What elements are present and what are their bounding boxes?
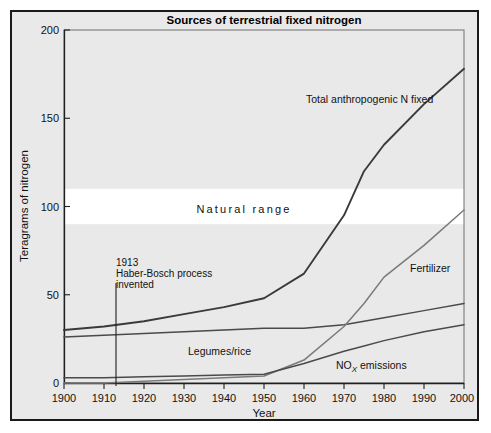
x-tick-1900: 1900 xyxy=(52,392,76,404)
x-tick-1910: 1910 xyxy=(92,392,116,404)
y-tick-200: 200 xyxy=(41,24,59,36)
series-fertilizer xyxy=(64,210,464,383)
figure-panel: Sources of terrestrial fixed nitrogen 0 … xyxy=(10,10,479,421)
annotation-year: 1913 xyxy=(116,257,139,268)
x-tick-1950: 1950 xyxy=(252,392,276,404)
x-tick-1930: 1930 xyxy=(172,392,196,404)
natural-range-label: Natural range xyxy=(196,203,291,215)
annotation-line-1: Haber-Bosch process xyxy=(116,268,212,279)
y-tick-50: 50 xyxy=(47,289,59,301)
haber-bosch-annotation: 1913 Haber-Bosch process invented xyxy=(116,257,212,386)
x-tick-1920: 1920 xyxy=(132,392,156,404)
curve-label-nox: NOX emissions xyxy=(336,359,407,374)
y-tick-100: 100 xyxy=(41,201,59,213)
y-tick-150: 150 xyxy=(41,112,59,124)
x-tick-1990: 1990 xyxy=(412,392,436,404)
curve-label-legumes: Legumes/rice xyxy=(188,345,251,357)
curve-label-total: Total anthropogenic N fixed xyxy=(306,93,433,105)
series-legumes-rice xyxy=(64,304,464,338)
x-axis-ticks: 1900 1910 1920 1930 1940 1950 1960 1970 … xyxy=(52,383,474,404)
x-tick-1980: 1980 xyxy=(372,392,396,404)
y-axis-ticks: 0 50 100 150 200 xyxy=(41,24,70,389)
x-tick-2000: 2000 xyxy=(450,392,474,404)
y-axis-title: Teragrams of nitrogen xyxy=(18,150,30,262)
x-axis-title: Year xyxy=(252,407,275,419)
nox-suffix: emissions xyxy=(357,359,407,371)
annotation-line-2: invented xyxy=(116,279,154,290)
x-tick-1970: 1970 xyxy=(332,392,356,404)
x-tick-1940: 1940 xyxy=(212,392,236,404)
nitrogen-sources-line-chart: Sources of terrestrial fixed nitrogen 0 … xyxy=(12,12,477,419)
series-group xyxy=(64,69,464,383)
y-tick-0: 0 xyxy=(53,377,59,389)
nox-prefix: NO xyxy=(336,359,352,371)
x-tick-1960: 1960 xyxy=(292,392,316,404)
chart-title: Sources of terrestrial fixed nitrogen xyxy=(167,14,362,26)
curve-label-fertilizer: Fertilizer xyxy=(410,262,451,274)
